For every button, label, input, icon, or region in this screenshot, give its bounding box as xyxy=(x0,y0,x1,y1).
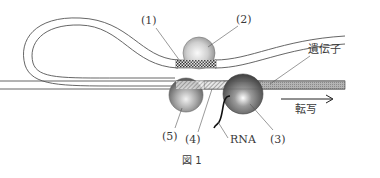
label-rna: RNA xyxy=(230,134,256,145)
label-transcription: 転写 xyxy=(295,104,317,115)
label-4: (4) xyxy=(185,134,201,145)
label-2: (2) xyxy=(236,14,252,25)
label-5: (5) xyxy=(162,131,178,142)
figure-caption: 図 1 xyxy=(182,156,202,166)
transcription-diagram xyxy=(0,0,380,178)
sphere-3 xyxy=(223,74,263,114)
label-1: (1) xyxy=(141,15,157,26)
label-3: (3) xyxy=(270,134,286,145)
label-gene: 遺伝子 xyxy=(308,44,341,55)
gene-bar xyxy=(258,81,345,89)
transcription-arrow xyxy=(281,95,333,103)
